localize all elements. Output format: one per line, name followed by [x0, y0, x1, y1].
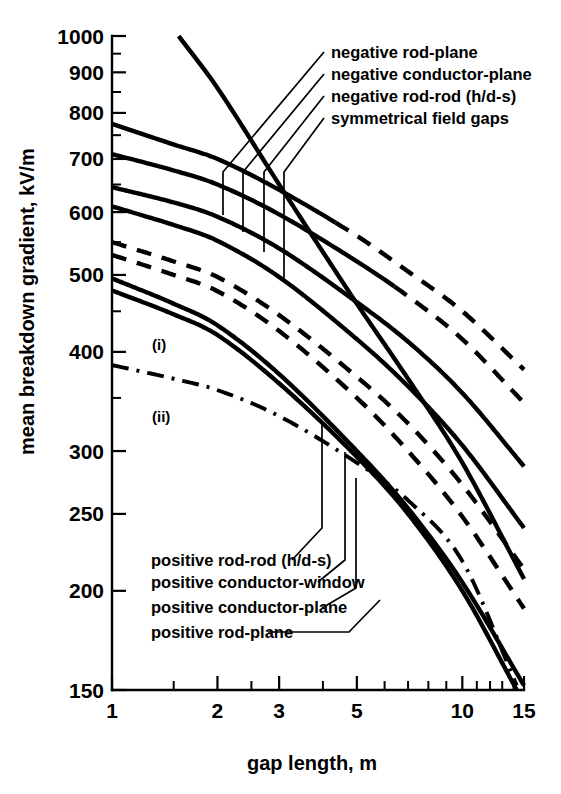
annotation-positive-conductor-window: positive conductor-window	[151, 573, 365, 591]
x-tick-label: 1	[106, 699, 118, 722]
upper-annotations: negative rod-plane negative conductor-pl…	[331, 43, 532, 127]
y-tick-label: 600	[69, 201, 104, 224]
curve-label-ii: (ii)	[152, 408, 170, 425]
annotation-positive-conductor-plane: positive conductor-plane	[151, 598, 347, 616]
x-tick-label: 5	[351, 699, 363, 722]
y-tick-label: 200	[69, 579, 104, 602]
annotation-positive-rod-plane: positive rod-plane	[151, 623, 293, 641]
y-tick-label: 250	[69, 502, 104, 525]
data-curves	[112, 36, 524, 690]
curve-label-i: (i)	[152, 336, 166, 353]
curve-positive-rod-rod-h-d-s-	[112, 206, 524, 528]
annotation-negative-conductor-plane: negative conductor-plane	[331, 65, 532, 83]
y-tick-label: 400	[69, 340, 104, 363]
breakdown-gradient-chart: mean breakdown gradient, kV/m gap length…	[0, 0, 561, 794]
y-axis-tick-labels: 1502002503004005006007008009001000	[57, 25, 104, 702]
y-axis-title: mean breakdown gradient, kV/m	[16, 148, 38, 455]
annotation-negative-rod-rod: negative rod-rod (h/d-s)	[331, 87, 516, 105]
x-tick-label: 2	[212, 699, 224, 722]
annotation-negative-rod-plane: negative rod-plane	[331, 43, 478, 61]
x-tick-label: 10	[451, 699, 474, 722]
y-tick-label: 900	[69, 61, 104, 84]
chart-figure: mean breakdown gradient, kV/m gap length…	[0, 0, 561, 794]
x-axis-ticks	[112, 676, 524, 690]
x-tick-label: 15	[512, 699, 536, 722]
y-tick-label: 800	[69, 101, 104, 124]
y-tick-label: 150	[69, 679, 104, 702]
y-axis-ticks	[112, 36, 126, 690]
annotation-symmetrical-field-gaps: symmetrical field gaps	[331, 109, 509, 127]
x-tick-label: 3	[273, 699, 285, 722]
y-tick-label: 700	[69, 147, 104, 170]
y-tick-label: 300	[69, 440, 104, 463]
x-axis-tick-labels: 12351015	[106, 699, 536, 722]
y-tick-label: 500	[69, 263, 104, 286]
lower-annotations: positive rod-rod (h/d-s) positive conduc…	[151, 551, 365, 641]
x-axis-title: gap length, m	[247, 752, 377, 774]
y-tick-label: 1000	[57, 25, 104, 48]
curve-negative-rod-rod-h-d-s-	[112, 187, 524, 466]
annotation-positive-rod-rod: positive rod-rod (h/d-s)	[151, 551, 332, 569]
